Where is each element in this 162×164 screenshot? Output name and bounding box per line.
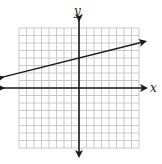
axes (3, 20, 146, 156)
y-axis-label: y (73, 4, 81, 18)
x-axis-label: x (150, 81, 157, 95)
coordinate-plane: x y (0, 0, 162, 164)
